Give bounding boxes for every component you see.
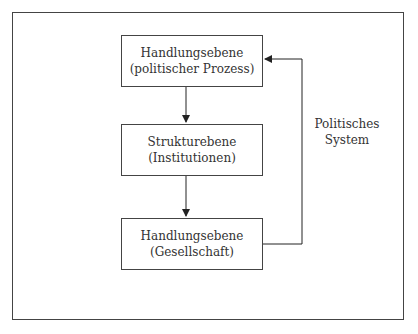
box-subtitle: (Gesellschaft) (150, 244, 234, 260)
box-title: Handlungsebene (141, 45, 244, 61)
feedback-arrow (263, 59, 302, 244)
label-line1: Politisches (312, 116, 382, 132)
box-institutions: Strukturebene (Institutionen) (121, 124, 263, 176)
box-subtitle: (Institutionen) (148, 150, 236, 166)
box-subtitle: (politischer Prozess) (130, 61, 255, 77)
box-political-process: Handlungsebene (politischer Prozess) (121, 35, 263, 87)
label-line2: System (312, 132, 382, 148)
box-society: Handlungsebene (Gesellschaft) (121, 218, 263, 270)
box-title: Handlungsebene (141, 228, 244, 244)
box-title: Strukturebene (148, 134, 237, 150)
political-system-label: Politisches System (312, 116, 382, 148)
